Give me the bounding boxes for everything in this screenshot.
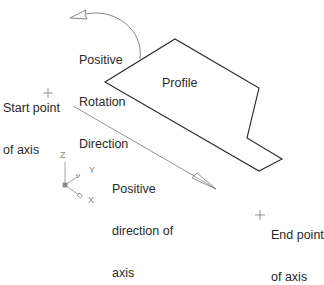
start-point-label-line-2: of axis bbox=[3, 143, 60, 157]
profile-label: Profile bbox=[162, 76, 197, 90]
ucs-y-label: Y bbox=[89, 165, 95, 175]
rotation-arrowhead-icon bbox=[70, 10, 87, 19]
positive-direction-label: Positive direction of axis bbox=[112, 154, 173, 285]
ucs-z-label: Z bbox=[60, 150, 66, 160]
start-point-label-line-1: Start point bbox=[3, 101, 60, 115]
end-point-cross-icon bbox=[255, 210, 265, 220]
rotation-label-line-2: Rotation bbox=[79, 95, 128, 109]
end-point-label-line-1: End point bbox=[271, 228, 324, 242]
profile-shape bbox=[105, 39, 282, 171]
start-point-label: Start point of axis bbox=[3, 73, 60, 185]
rotation-label-line-3: Direction bbox=[79, 137, 128, 151]
positive-direction-line-3: axis bbox=[112, 266, 173, 280]
axis-arrow-shaft bbox=[194, 176, 216, 189]
end-point-label: End point of axis bbox=[271, 200, 324, 285]
positive-direction-line-2: direction of bbox=[112, 224, 173, 238]
rotation-label-line-1: Positive bbox=[79, 53, 128, 67]
ucs-x-label: X bbox=[88, 195, 94, 205]
end-point-label-line-2: of axis bbox=[271, 270, 324, 284]
positive-direction-line-1: Positive bbox=[112, 182, 173, 196]
